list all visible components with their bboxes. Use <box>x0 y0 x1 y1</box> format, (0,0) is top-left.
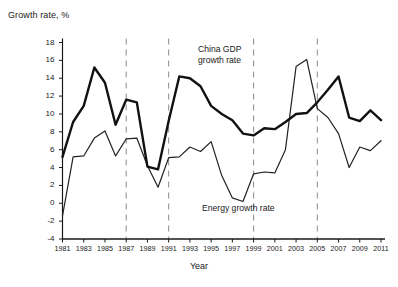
y-tick-label-14: 14 <box>33 74 55 82</box>
y-tick-label-18: 18 <box>33 39 55 47</box>
annotation-energy-growth-rate: Energy growth rate <box>202 203 275 214</box>
chart-figure: Growth rate, % -4-2024681012141618 19811… <box>0 0 398 287</box>
annotation-gdp-line1: China GDP <box>198 44 241 55</box>
y-tick-label-16: 16 <box>33 56 55 64</box>
series-line-china-gdp-growth-rate <box>63 68 382 170</box>
y-tick-label-2: 2 <box>33 181 55 189</box>
x-axis-title: Year <box>0 261 398 271</box>
y-tick-label-6: 6 <box>33 146 55 154</box>
y-tick-label-10: 10 <box>33 110 55 118</box>
y-tick-label-4: 4 <box>33 164 55 172</box>
y-tick-label-8: 8 <box>33 128 55 136</box>
y-tick-label-12: 12 <box>33 92 55 100</box>
y-tick-label--2: -2 <box>33 217 55 225</box>
y-tick-label-0: 0 <box>33 199 55 207</box>
x-tick-label-2011: 2011 <box>368 245 394 253</box>
annotation-gdp-line2: growth rate <box>198 55 241 66</box>
y-tick-label--4: -4 <box>33 235 55 243</box>
annotation-china-gdp-growth-rate: China GDP growth rate <box>198 44 241 66</box>
